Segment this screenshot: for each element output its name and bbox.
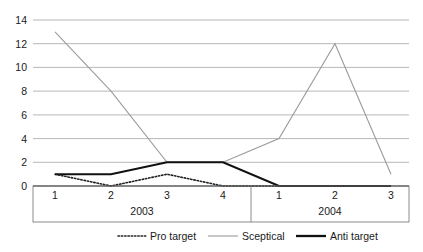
series-line-anti-target xyxy=(55,162,391,186)
x-tick-label: 2 xyxy=(108,189,114,201)
series-line-pro-target xyxy=(55,174,391,186)
chart-legend: Pro target Sceptical Anti target xyxy=(118,230,378,242)
y-tick-label: 6 xyxy=(21,109,27,121)
x-tick-label: 1 xyxy=(52,189,58,201)
chart-canvas: 14 12 10 8 6 4 2 0 1 2 3 4 1 2 xyxy=(0,0,423,252)
x-tick-label: 3 xyxy=(164,189,170,201)
y-tick-label: 8 xyxy=(21,85,27,97)
line-chart: 14 12 10 8 6 4 2 0 1 2 3 4 1 2 xyxy=(0,0,423,252)
legend-label-anti-target: Anti target xyxy=(330,230,378,242)
y-tick-label: 10 xyxy=(15,61,27,73)
y-tick-label: 4 xyxy=(21,133,27,145)
legend-label-pro-target: Pro target xyxy=(150,230,196,242)
x-tick-label: 2 xyxy=(332,189,338,201)
y-axis-labels: 14 12 10 8 6 4 2 0 xyxy=(15,14,27,192)
y-tick-label: 14 xyxy=(15,14,27,26)
x-axis-labels: 1 2 3 4 1 2 3 xyxy=(52,189,394,201)
gridlines xyxy=(33,20,409,162)
x-tick-label: 4 xyxy=(220,189,226,201)
y-tick-label: 2 xyxy=(21,156,27,168)
x-axis-group-labels: 2003 2004 xyxy=(130,205,342,217)
series-line-sceptical xyxy=(55,32,391,174)
legend-label-sceptical: Sceptical xyxy=(242,230,285,242)
x-tick-label: 3 xyxy=(388,189,394,201)
group-label-2004: 2004 xyxy=(318,205,342,217)
group-label-2003: 2003 xyxy=(130,205,154,217)
y-tick-label: 0 xyxy=(21,180,27,192)
y-tick-label: 12 xyxy=(15,38,27,50)
x-tick-label: 1 xyxy=(276,189,282,201)
